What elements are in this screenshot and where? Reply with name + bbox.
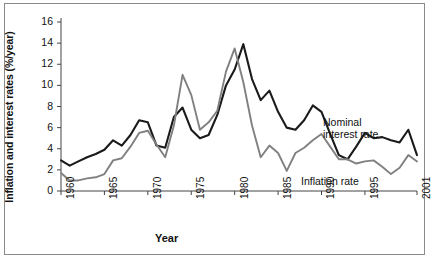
x-tick-1960: 1960 bbox=[65, 177, 76, 199]
y-tick-16: 16 bbox=[29, 15, 53, 27]
x-tick-1975: 1975 bbox=[195, 177, 206, 199]
figure-frame: Inflation and interest rates (%/year) 02… bbox=[4, 3, 425, 255]
annotation-nominal-interest-rate: Nominal interest rate bbox=[323, 117, 378, 140]
y-tick-14: 14 bbox=[29, 36, 53, 48]
x-tick-1985: 1985 bbox=[282, 177, 293, 199]
x-tick-1995: 1995 bbox=[369, 177, 380, 199]
source-note-cropped bbox=[3, 262, 303, 270]
y-tick-6: 6 bbox=[29, 121, 53, 133]
annotation-nominal-line1: Nominal bbox=[323, 117, 378, 129]
x-tick-2001: 2001 bbox=[421, 177, 432, 199]
x-axis-label: Year bbox=[155, 232, 178, 244]
y-tick-2: 2 bbox=[29, 163, 53, 175]
y-tick-12: 12 bbox=[29, 57, 53, 69]
y-tick-10: 10 bbox=[29, 78, 53, 90]
y-tick-4: 4 bbox=[29, 142, 53, 154]
y-tick-0: 0 bbox=[29, 184, 53, 196]
annotation-nominal-line2: interest rate bbox=[323, 129, 378, 141]
y-tick-8: 8 bbox=[29, 100, 53, 112]
x-tick-1965: 1965 bbox=[108, 177, 119, 199]
series-inflation-rate bbox=[61, 48, 417, 180]
annotation-inflation-rate: Inflation rate bbox=[301, 176, 359, 188]
x-tick-1980: 1980 bbox=[239, 177, 250, 199]
x-tick-1970: 1970 bbox=[152, 177, 163, 199]
annotation-inflation-line1: Inflation rate bbox=[301, 176, 359, 188]
